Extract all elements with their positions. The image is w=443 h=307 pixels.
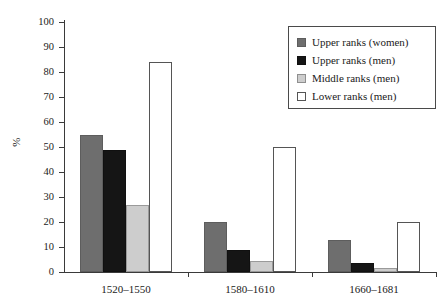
legend-swatch-lower-men (297, 92, 306, 101)
legend-swatch-upper-men (297, 56, 306, 65)
y-tick-label: 10 (28, 242, 54, 252)
x-tick-mark (436, 272, 437, 277)
bar (227, 250, 250, 273)
legend-item: Upper ranks (women) (297, 33, 409, 51)
bar (80, 135, 103, 273)
y-tick-label: 30 (28, 192, 54, 202)
y-tick-label: 40 (28, 167, 54, 177)
bar (204, 222, 227, 272)
y-tick-label: 80 (28, 67, 54, 77)
x-axis-group-label: 1580–1610 (188, 283, 312, 295)
bar (149, 62, 172, 272)
bar-chart: % 0102030405060708090100 1520–15501580–1… (0, 0, 443, 307)
legend: Upper ranks (women)Upper ranks (men)Midd… (288, 26, 436, 109)
bar (374, 268, 397, 272)
bar (250, 261, 273, 272)
x-axis-line (64, 272, 436, 273)
legend-item-label: Middle ranks (men) (312, 73, 399, 84)
bar (397, 222, 420, 272)
x-tick-mark (188, 272, 189, 277)
legend-swatch-middle-men (297, 74, 306, 83)
y-axis-title: % (10, 132, 22, 152)
bar (273, 147, 296, 272)
y-tick-mark (59, 272, 64, 273)
x-tick-mark (312, 272, 313, 277)
legend-item: Lower ranks (men) (297, 87, 396, 105)
legend-item-label: Lower ranks (men) (312, 91, 396, 102)
y-tick-label: 60 (28, 117, 54, 127)
bar (328, 240, 351, 273)
legend-item-label: Upper ranks (men) (312, 55, 395, 66)
x-axis-group-label: 1520–1550 (64, 283, 188, 295)
y-tick-label: 20 (28, 217, 54, 227)
y-tick-label: 90 (28, 42, 54, 52)
legend-item: Middle ranks (men) (297, 69, 399, 87)
legend-swatch-upper-women (297, 38, 306, 47)
legend-item-label: Upper ranks (women) (312, 37, 409, 48)
bar (126, 205, 149, 273)
x-axis-group-label: 1660–1681 (312, 283, 436, 295)
y-tick-label: 0 (28, 267, 54, 277)
y-tick-label: 70 (28, 92, 54, 102)
y-tick-label: 100 (28, 17, 54, 27)
bar (103, 150, 126, 273)
legend-item: Upper ranks (men) (297, 51, 395, 69)
y-tick-label: 50 (28, 142, 54, 152)
bar (351, 263, 374, 272)
